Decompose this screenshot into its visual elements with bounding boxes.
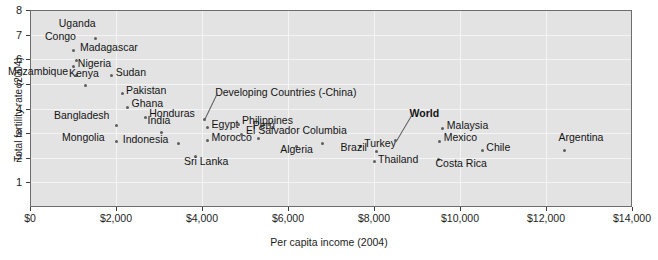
plot-area: [30, 10, 632, 207]
data-point-label: Congo: [45, 30, 76, 42]
x-axis-tick-label: $14,000: [613, 212, 651, 224]
x-axis-tick: [30, 207, 31, 211]
gridline-horizontal: [31, 109, 631, 110]
data-point-label: World: [410, 107, 440, 119]
y-axis-title: Total fertility rate (2004): [13, 30, 24, 190]
data-point-label: Columbia: [302, 124, 346, 136]
data-point: [72, 49, 75, 52]
y-axis-tick: [26, 158, 30, 159]
x-axis-tick: [546, 207, 547, 211]
data-point: [126, 106, 129, 109]
data-point-label: Egypt: [212, 118, 239, 130]
x-axis-tick: [632, 207, 633, 211]
x-axis-tick-label: $6,000: [272, 212, 304, 224]
data-point: [121, 92, 124, 95]
data-point: [438, 140, 441, 143]
data-point: [144, 116, 147, 119]
data-point-label: Perú: [253, 119, 275, 131]
data-point-label: Mexico: [444, 131, 477, 143]
data-point: [84, 84, 87, 87]
y-axis-tick: [26, 182, 30, 183]
data-point-label: Thailand: [378, 153, 418, 165]
x-axis-tick-label: $8,000: [358, 212, 390, 224]
x-axis-tick-label: $10,000: [441, 212, 479, 224]
y-axis-tick: [26, 109, 30, 110]
x-axis-tick-label: $12,000: [527, 212, 565, 224]
data-point-label: Sudan: [116, 66, 146, 78]
x-axis-tick: [374, 207, 375, 211]
y-axis-tick-label: 8: [0, 4, 22, 16]
data-point-label: Indonesia: [123, 133, 169, 145]
data-point: [563, 149, 566, 152]
data-point-label: Chile: [486, 141, 510, 153]
data-point-label: Malaysia: [447, 119, 488, 131]
x-axis-tick-label: $0: [24, 212, 36, 224]
data-point-label: Pakistan: [126, 84, 166, 96]
data-point-label: Argentina: [558, 131, 603, 143]
gridline-horizontal: [31, 35, 631, 36]
data-point-label: Madagascar: [80, 41, 138, 53]
x-axis-title: Per capita income (2004): [0, 236, 658, 248]
y-axis-tick: [26, 84, 30, 85]
y-axis-tick: [26, 35, 30, 36]
data-point-label: Uganda: [59, 17, 96, 29]
data-point-label: Bangladesh: [54, 109, 109, 121]
x-axis-tick-label: $2,000: [100, 212, 132, 224]
y-axis-tick: [26, 59, 30, 60]
gridline-horizontal: [31, 158, 631, 159]
x-axis-tick: [116, 207, 117, 211]
chart-figure: $0$2,000$4,000$6,000$8,000$10,000$12,000…: [0, 0, 658, 260]
gridline-horizontal: [31, 182, 631, 183]
x-axis-tick: [202, 207, 203, 211]
data-point-label: Mongolia: [62, 131, 105, 143]
data-point: [321, 142, 324, 145]
x-axis-tick: [288, 207, 289, 211]
data-point: [481, 149, 484, 152]
data-point-label: Costa Rica: [436, 157, 487, 169]
y-axis-tick: [26, 10, 30, 11]
y-axis-tick: [26, 133, 30, 134]
gridline-horizontal: [31, 59, 631, 60]
data-point-label: Brazil: [341, 141, 367, 153]
x-axis-tick: [460, 207, 461, 211]
x-axis-tick-label: $4,000: [186, 212, 218, 224]
data-point: [206, 126, 209, 129]
data-point-label: Kenya: [69, 67, 99, 79]
data-point: [115, 140, 118, 143]
data-point-label: India: [148, 114, 171, 126]
data-point-label: Sri Lanka: [184, 155, 228, 167]
data-point: [115, 124, 118, 127]
data-point-label: Developing Countries (-China): [215, 86, 356, 98]
data-point-label: Algeria: [280, 143, 313, 155]
data-point-label: Turkey: [364, 137, 396, 149]
data-point: [237, 123, 240, 126]
